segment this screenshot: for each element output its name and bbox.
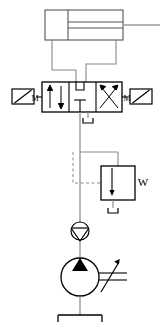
- line-port-a: [52, 40, 76, 82]
- solenoid-actuator-right[interactable]: [130, 89, 152, 104]
- relief-spring-label: W: [138, 176, 149, 188]
- reservoir-tank: [58, 315, 102, 322]
- valve-position-left: [47, 85, 63, 109]
- valve-position-center: [74, 82, 86, 112]
- solenoid-left-label: M: [31, 94, 38, 103]
- valve-tank-return: [83, 112, 93, 123]
- valve-position-right: [100, 85, 118, 108]
- pump-flow-triangle: [72, 258, 88, 271]
- relief-pilot-line: [73, 152, 101, 183]
- tank-symbol-relief: [108, 208, 118, 213]
- pressure-relief-valve[interactable]: W: [73, 152, 149, 200]
- tank-symbol-valve: [83, 118, 93, 123]
- relief-valve-arrowhead: [109, 190, 114, 196]
- cylinder-barrel: [45, 10, 123, 40]
- solenoid-right-diagonal: [133, 90, 150, 103]
- hydraulic-circuit-diagram: M M W: [0, 0, 164, 329]
- pump-adjust-arrow-shaft: [101, 262, 119, 292]
- valve-body[interactable]: [42, 82, 122, 112]
- directional-control-valve[interactable]: [36, 82, 128, 112]
- line-port-b: [86, 40, 116, 82]
- relief-tank-return: [108, 200, 118, 213]
- hydraulic-pump[interactable]: [61, 258, 127, 296]
- pump-adjust-arrowhead: [114, 259, 120, 264]
- solenoid-right-label: M: [123, 94, 130, 103]
- circuit-svg: M M W: [0, 0, 164, 329]
- check-valve[interactable]: [71, 222, 89, 241]
- cylinder-to-valve-piping: [52, 40, 116, 82]
- solenoid-left-diagonal: [15, 90, 32, 103]
- check-valve-poppet: [71, 228, 89, 241]
- double-acting-cylinder: [45, 10, 160, 40]
- relief-valve-body[interactable]: [101, 166, 135, 200]
